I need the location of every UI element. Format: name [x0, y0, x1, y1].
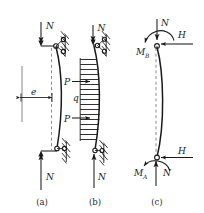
- panel-a-caption: (a): [36, 197, 48, 207]
- panel-b-point-load-upper-label: P: [63, 77, 71, 87]
- panel-c-bottom-moment-subscript: A: [142, 173, 148, 180]
- panel-c-bottom-force-label: N: [162, 168, 172, 178]
- panel-b: N: [63, 23, 110, 207]
- panel-a-column-curve: [56, 47, 61, 148]
- panel-a-top-force-label: N: [45, 21, 55, 31]
- panel-b-point-load-lower-label: P: [63, 114, 71, 124]
- panel-a-top-support: [54, 32, 69, 57]
- panel-b-caption: (b): [89, 197, 101, 207]
- figure-svg: N: [0, 0, 204, 213]
- panel-b-distributed-load: [80, 58, 100, 141]
- panel-b-top-force-label: N: [97, 23, 107, 33]
- figure-container: N: [0, 0, 204, 213]
- panel-c-bottom-horizontal-label: H: [177, 146, 186, 156]
- panel-c-top-moment-subscript: B: [144, 52, 150, 59]
- panel-a: N: [20, 21, 70, 207]
- panel-b-distributed-load-label: q: [73, 93, 79, 103]
- panel-c: N H M B: [133, 18, 193, 207]
- panel-c-bottom-moment-label: M A: [133, 168, 148, 180]
- panel-c-bottom-node: [155, 155, 160, 160]
- panel-c-top-moment-label: M B: [135, 47, 150, 59]
- panel-c-top-moment-arc: [145, 31, 174, 43]
- panel-c-top-force-label: N: [160, 18, 170, 28]
- panel-c-caption: (c): [151, 197, 162, 207]
- panel-b-bottom-force-label: N: [97, 172, 107, 182]
- panel-c-column-curve: [157, 47, 163, 157]
- panel-a-bottom-force-label: N: [45, 172, 55, 182]
- panel-a-eccentricity-label: e: [31, 87, 36, 97]
- panel-b-bottom-support: [93, 140, 108, 165]
- panel-c-top-horizontal-label: H: [177, 30, 186, 40]
